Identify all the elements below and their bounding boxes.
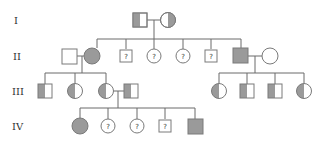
generation-label-iii: III [12,86,24,97]
individual-iv-1 [72,118,88,134]
unknown-mark: ? [135,123,139,131]
individual-iii-1 [38,84,52,98]
individual-iv-4: ? [159,120,171,132]
individual-iii-5 [212,84,227,99]
generation-label-iv: IV [12,121,24,132]
unknown-mark: ? [163,123,167,131]
individual-iii-4 [124,84,138,98]
generation-labels: I II III IV [12,15,24,132]
individual-ii-1 [62,49,77,64]
unknown-mark: ? [209,53,213,61]
individual-iv-2: ? [101,119,115,133]
individual-iii-3 [99,84,114,99]
individual-iii-7 [268,84,282,98]
individual-ii-3: ? [120,50,132,62]
individual-ii-6: ? [205,50,217,62]
individual-i-2 [161,13,176,28]
individual-iii-8 [297,84,312,99]
individual-ii-5: ? [176,49,190,63]
individual-iii-2 [68,84,83,99]
individual-ii-2 [84,48,100,64]
individual-i-1 [133,13,147,27]
unknown-mark: ? [152,53,156,61]
unknown-mark: ? [181,53,185,61]
individual-iii-6 [240,84,254,98]
generation-label-i: I [14,15,18,26]
unknown-mark: ? [124,53,128,61]
generation-label-ii: II [13,51,21,62]
individual-iv-3: ? [130,119,144,133]
unknown-mark: ? [106,123,110,131]
individual-iv-5 [188,119,203,134]
individual-ii-4: ? [147,49,161,63]
pedigree-chart: I II III IV [0,0,326,148]
individual-ii-8 [262,48,278,64]
relationship-lines [45,20,304,119]
individual-ii-7 [233,48,248,63]
